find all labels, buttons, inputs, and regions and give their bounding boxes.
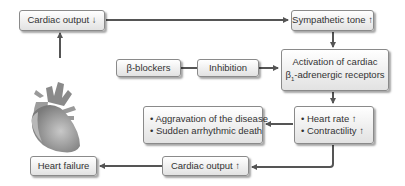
node-label-line2: β1-adrenergic receptors [285,69,384,84]
node-inhibition: Inhibition [197,59,259,77]
node-cardiac-output-decreased: Cardiac output ↓ [19,10,105,31]
node-heart-effects: • Heart rate ↑ • Contractility ↑ [294,106,374,144]
node-label-line2-text: -adrenergic receptors [294,69,384,80]
node-cardiac-output-increased: Cardiac output ↑ [162,156,249,176]
node-heart-failure: Heart failure [30,156,97,176]
node-activation-beta1-receptors: Activation of cardiac β1-adrenergic rece… [281,49,389,91]
arrow-heart-effects-to-cardiac-output-up [252,145,333,167]
node-label: Heart failure [38,160,90,172]
node-label: Cardiac output ↑ [171,160,240,172]
effect-item: • Contractility ↑ [301,125,364,137]
heart-icon [18,80,90,154]
node-beta-blockers: β-blockers [116,59,181,77]
node-label-line1: Activation of cardiac [285,56,384,68]
node-label: Inhibition [209,62,247,74]
node-label: β-blockers [126,62,170,74]
consequence-item: • Aggravation of the disease [150,113,268,125]
node-label: Sympathetic tone ↑ [292,14,373,26]
node-consequences: • Aggravation of the disease • Sudden ar… [143,106,263,144]
consequence-item: • Sudden arrhythmic death [150,125,268,137]
effect-item: • Heart rate ↑ [301,113,364,125]
node-label: Cardiac output ↓ [27,14,96,26]
node-sympathetic-tone-increased: Sympathetic tone ↑ [291,10,374,31]
